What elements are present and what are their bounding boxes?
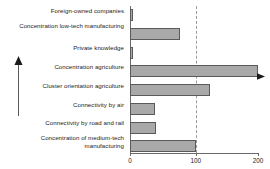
bar-row [130,119,258,138]
x-tick-label: 200 [253,157,264,165]
tick-mark [130,153,131,156]
category-label: Concentration of medium-tech manufacturi… [0,134,124,149]
category-label: Connectivity by road and rail [0,119,124,126]
tick-mark [258,153,259,156]
bar-row [130,81,258,100]
bar-connectivity-by-air [130,103,155,115]
bar-row [130,25,258,44]
category-label: Concentration agriculture [0,63,124,70]
category-label: Concentration low-tech manufacturing [0,22,124,29]
bar-concentration-low-tech-manufacturing [130,28,180,40]
bar-foreign-owned-companies [130,9,133,21]
tick-mark [196,153,197,156]
x-axis-ticks: 0 100 200 [130,155,270,167]
bar-private-knowledge [130,47,133,59]
x-tick-label: 100 [190,157,201,165]
x-tick-label: 0 [128,157,132,165]
category-labels: Foreign-owned companies Concentration lo… [0,3,127,153]
bar-row [130,137,258,156]
bar-cluster-orientation-agriculture [130,84,210,96]
bar-concentration-of-medium-tech-manufacturing [130,140,196,152]
bar-row [130,44,258,63]
plot-area [130,3,258,153]
bar-chart: Foreign-owned companies Concentration lo… [0,0,270,169]
bar-row [130,6,258,25]
bar-concentration-agriculture [130,65,258,77]
category-label: Foreign-owned companies [0,7,124,14]
category-label: Connectivity by air [0,101,124,108]
bar-row [130,100,258,119]
category-label: Private knowledge [0,44,124,51]
bar-row [130,62,258,81]
bar-connectivity-by-road-and-rail [130,122,156,134]
right-arrow-icon [257,67,266,76]
category-label: Cluster orientation agriculture [0,82,124,89]
bar-rows [130,3,258,153]
